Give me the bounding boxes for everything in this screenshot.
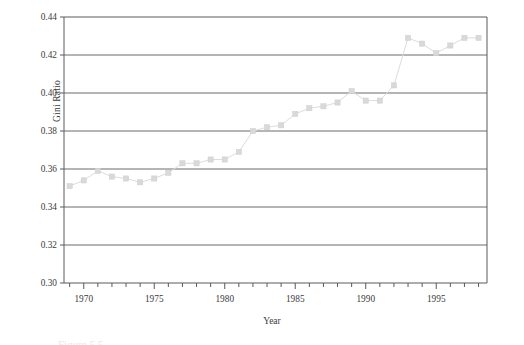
- data-point-marker: [434, 51, 439, 56]
- x-axis-title: Year: [0, 316, 524, 326]
- data-point-marker: [109, 174, 114, 179]
- data-point-marker: [391, 83, 396, 88]
- data-point-marker: [363, 98, 368, 103]
- x-tick-label: 1995: [427, 294, 446, 304]
- series-polyline: [70, 38, 479, 186]
- figure-caption: Figure 5.5: [58, 338, 103, 345]
- data-point-marker: [476, 35, 481, 40]
- x-tick-label: 1990: [356, 294, 375, 304]
- y-tick-label: 0.30: [41, 278, 58, 288]
- y-axis-title: Gini Ratio: [52, 46, 62, 156]
- data-point-marker: [222, 157, 227, 162]
- data-point-marker: [264, 125, 269, 130]
- y-tick-label: 0.34: [41, 202, 58, 212]
- data-series-line: [70, 38, 479, 186]
- data-point-marker: [152, 176, 157, 181]
- x-axis-title-text: Year: [263, 316, 281, 326]
- x-tick-label: 1985: [286, 294, 305, 304]
- data-point-marker: [95, 168, 100, 173]
- data-point-marker: [420, 41, 425, 46]
- data-point-marker: [321, 104, 326, 109]
- gini-ratio-figure: 0.300.320.340.360.380.400.420.44 1970197…: [0, 0, 524, 345]
- gridlines: [64, 17, 487, 283]
- data-point-marker: [377, 98, 382, 103]
- y-tick-label: 0.36: [41, 164, 58, 174]
- data-point-marker: [307, 106, 312, 111]
- data-point-marker: [236, 149, 241, 154]
- data-point-marker: [250, 128, 255, 133]
- data-point-marker: [166, 170, 171, 175]
- x-axis: 197019751980198519901995: [70, 283, 479, 304]
- data-point-marker: [123, 176, 128, 181]
- data-point-marker: [462, 35, 467, 40]
- data-point-marker: [67, 184, 72, 189]
- x-tick-label: 1980: [215, 294, 234, 304]
- data-point-marker: [349, 89, 354, 94]
- data-point-marker: [448, 43, 453, 48]
- data-point-marker: [279, 123, 284, 128]
- data-point-marker: [180, 161, 185, 166]
- y-tick-label: 0.44: [41, 12, 58, 22]
- data-point-marker: [293, 111, 298, 116]
- data-point-marker: [335, 100, 340, 105]
- data-series-markers: [67, 35, 481, 188]
- data-point-marker: [405, 35, 410, 40]
- gini-ratio-line-chart: 0.300.320.340.360.380.400.420.44 1970197…: [0, 0, 524, 345]
- data-point-marker: [81, 178, 86, 183]
- data-point-marker: [208, 157, 213, 162]
- y-tick-label: 0.32: [41, 240, 58, 250]
- data-point-marker: [138, 180, 143, 185]
- x-tick-label: 1970: [74, 294, 93, 304]
- x-tick-label: 1975: [145, 294, 164, 304]
- data-point-marker: [194, 161, 199, 166]
